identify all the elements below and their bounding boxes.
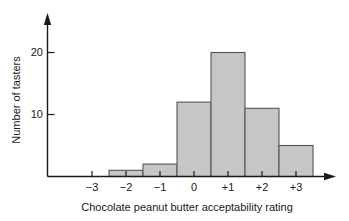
x-axis-title: Chocolate peanut butter acceptability ra… [81,201,293,213]
histogram-figure: 1020 −3−2−10+1+2+3 Number of tasters Cho… [0,0,349,221]
y-tick-label: 20 [31,46,43,58]
bars-group [109,53,313,177]
histogram-bar [211,53,245,177]
y-tick-label: 10 [31,108,43,120]
x-tick-label: 0 [191,181,197,193]
y-ticks-group: 1020 [31,46,55,120]
x-tick-label: +1 [222,181,235,193]
x-tick-label: +2 [256,181,269,193]
x-tick-label: −2 [120,181,133,193]
x-tick-label: −3 [86,181,99,193]
x-axis-arrow-icon [324,173,336,180]
x-tick-label: −1 [154,181,167,193]
histogram-bar [177,102,211,176]
histogram-svg: 1020 −3−2−10+1+2+3 Number of tasters Cho… [0,0,349,221]
histogram-bar [245,108,279,176]
y-axis-title: Number of tasters [10,56,22,144]
x-tick-label: +3 [290,181,303,193]
y-axis-arrow-icon [44,13,51,25]
